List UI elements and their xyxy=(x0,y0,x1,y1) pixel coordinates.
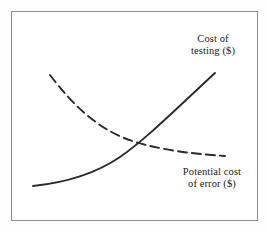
potential-cost-of-error-label: Potential cost of error ($) xyxy=(166,166,258,190)
cost-of-testing-label: Cost of testing ($) xyxy=(172,33,254,57)
cost-of-testing-label-line2: testing ($) xyxy=(172,45,254,57)
figure-container: Cost of testing ($) Potential cost of er… xyxy=(0,0,269,233)
cost-of-testing-label-line1: Cost of xyxy=(172,33,254,45)
potential-cost-of-error-label-line2: of error ($) xyxy=(166,178,258,190)
potential-cost-of-error-label-line1: Potential cost xyxy=(166,166,258,178)
